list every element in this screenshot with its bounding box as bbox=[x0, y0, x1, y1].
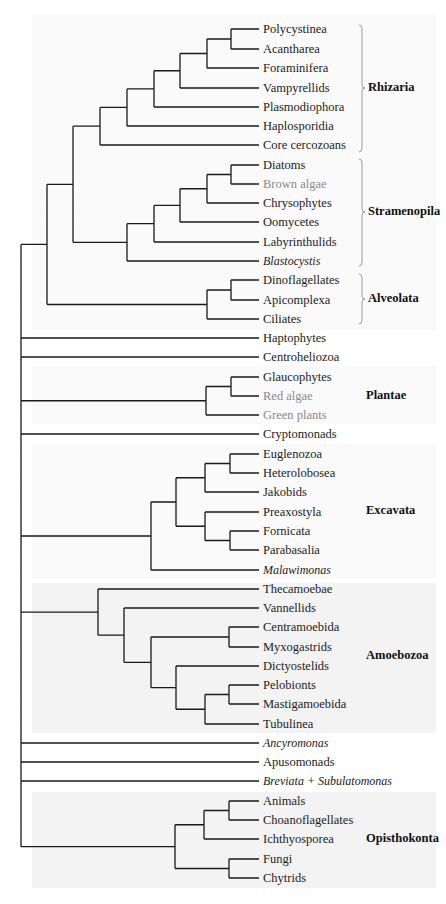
clade-bracket bbox=[359, 25, 365, 152]
taxon-label: Mastigamoebida bbox=[263, 697, 346, 711]
taxon-label: Ciliates bbox=[263, 312, 301, 326]
taxon-label: Parabasalia bbox=[263, 543, 320, 557]
taxon-label: Dictyostelids bbox=[263, 659, 329, 673]
taxon-label: Centroheliozoa bbox=[263, 350, 339, 364]
taxon-label: Vannellids bbox=[263, 601, 316, 615]
taxon-label: Centramoebida bbox=[263, 620, 339, 634]
taxon-label: Acantharea bbox=[263, 42, 320, 56]
clade-label: Rhizaria bbox=[368, 80, 415, 95]
taxon-label: Green plants bbox=[263, 408, 327, 422]
taxon-label: Tubulinea bbox=[263, 717, 313, 731]
clade-label: Amoebozoa bbox=[366, 648, 429, 663]
taxon-label: Preaxostyla bbox=[263, 505, 321, 519]
taxon-label: Malawimonas bbox=[263, 563, 331, 577]
taxon-label: Chrysophytes bbox=[263, 196, 332, 210]
taxon-label: Labyrinthulids bbox=[263, 235, 337, 249]
clade-label: Plantae bbox=[366, 388, 406, 403]
taxon-label: Thecamoebae bbox=[263, 582, 332, 596]
clade-label: Excavata bbox=[366, 503, 415, 518]
taxon-label: Glaucophytes bbox=[263, 370, 332, 384]
taxon-label: Fungi bbox=[263, 852, 292, 866]
taxon-label: Fornicata bbox=[263, 524, 310, 538]
taxon-label: Apicomplexa bbox=[263, 293, 330, 307]
taxon-label: Dinoflagellates bbox=[263, 273, 339, 287]
taxon-label: Red algae bbox=[263, 389, 313, 403]
taxon-label: Choanoflagellates bbox=[263, 813, 353, 827]
clade-bracket bbox=[359, 159, 365, 266]
taxon-label: Core cercozoans bbox=[263, 138, 346, 152]
taxon-label: Euglenozoa bbox=[263, 447, 322, 461]
taxon-label: Apusomonads bbox=[263, 755, 335, 769]
taxon-label: Myxogastrids bbox=[263, 640, 332, 654]
taxon-label: Cryptomonads bbox=[263, 427, 337, 441]
taxon-label: Haptophytes bbox=[263, 331, 326, 345]
taxon-label: Ancyromonas bbox=[263, 736, 329, 750]
phylogenetic-tree bbox=[0, 0, 446, 904]
taxon-label: Plasmodiophora bbox=[263, 100, 344, 114]
taxon-label: Diatoms bbox=[263, 158, 305, 172]
tree-branches bbox=[21, 29, 259, 878]
taxon-label: Ichthyosporea bbox=[263, 832, 334, 846]
taxon-label: Oomycetes bbox=[263, 215, 319, 229]
taxon-label: Animals bbox=[263, 794, 305, 808]
taxon-label: Polycystinea bbox=[263, 22, 327, 36]
clade-bracket bbox=[359, 274, 365, 324]
taxon-label: Haplosporidia bbox=[263, 119, 334, 133]
taxon-label: Brown algae bbox=[263, 177, 327, 191]
taxon-label: Breviata + Subulatomonas bbox=[263, 774, 392, 788]
taxon-label: Blastocystis bbox=[263, 254, 320, 268]
clade-label: Stramenopila bbox=[368, 204, 440, 219]
taxon-label: Foraminifera bbox=[263, 61, 328, 75]
taxon-label: Pelobionts bbox=[263, 678, 316, 692]
taxon-label: Jakobids bbox=[263, 485, 307, 499]
clade-label: Opisthokonta bbox=[366, 831, 439, 846]
taxon-label: Chytrids bbox=[263, 871, 306, 885]
clade-label: Alveolata bbox=[368, 291, 419, 306]
taxon-label: Heterolobosea bbox=[263, 466, 335, 480]
taxon-label: Vampyrellids bbox=[263, 81, 330, 95]
